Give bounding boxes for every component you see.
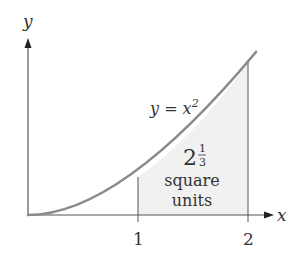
- curve-label: y = x2: [149, 97, 199, 118]
- area-value-numerator: 1: [199, 142, 206, 155]
- tick-label-1: 1: [133, 229, 144, 249]
- x-axis-arrow-icon: [264, 212, 274, 219]
- y-axis-label: y: [22, 11, 33, 31]
- area-units-line1: square: [164, 171, 219, 190]
- area-value-whole: 2: [183, 145, 197, 170]
- curve-label-exponent: 2: [191, 97, 199, 110]
- y-axis-arrow-icon: [25, 38, 32, 48]
- area-diagram: y x 1 2 y = x2 2 1 3 square units: [0, 0, 298, 262]
- tick-label-2: 2: [243, 229, 254, 249]
- area-value-denominator: 3: [199, 156, 206, 169]
- area-units-line2: units: [172, 191, 212, 210]
- x-axis-label: x: [277, 205, 287, 225]
